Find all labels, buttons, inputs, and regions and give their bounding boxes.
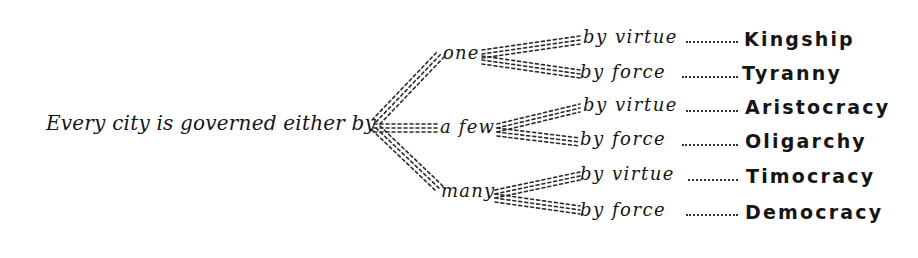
mode-few-virtue: by virtue [583,96,678,114]
constitution-tree-diagram: Every city is governed either by one a f… [0,0,918,258]
constitution-oligarchy: Oligarchy [745,132,867,151]
constitution-kingship: Kingship [744,30,855,49]
branch-a-few: a few [440,118,495,136]
mode-few-force: by force [580,130,666,148]
branch-many: many [441,182,495,200]
branch-one: one [443,44,480,62]
leader-aristocracy [686,110,738,112]
mode-one-force: by force [580,63,666,81]
leader-kingship [686,41,738,43]
constitution-democracy: Democracy [745,203,883,222]
constitution-tyranny: Tyranny [742,64,842,83]
leader-oligarchy [682,144,738,146]
mode-many-virtue: by virtue [580,165,675,183]
constitution-aristocracy: Aristocracy [745,98,890,117]
leader-democracy [686,214,738,216]
leader-timocracy [688,179,738,181]
root-statement: Every city is governed either by [46,113,376,133]
mode-many-force: by force [580,201,666,219]
leader-tyranny [682,76,738,78]
constitution-timocracy: Timocracy [746,167,875,186]
mode-one-virtue: by virtue [583,28,678,46]
